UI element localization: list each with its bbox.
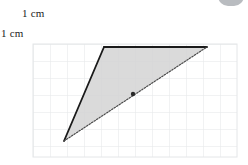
- midpoint-dot-marker: [131, 92, 135, 96]
- figure-canvas: 1 cm 1 cm: [0, 0, 248, 165]
- geometry-figure: [0, 0, 248, 165]
